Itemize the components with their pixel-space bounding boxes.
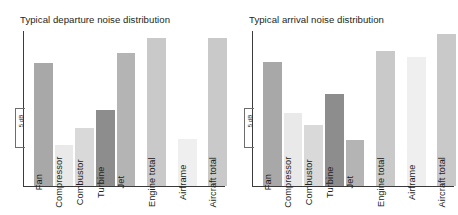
bar-label: Compressor <box>55 156 64 207</box>
scale-stem <box>15 108 16 148</box>
bar-compressor: Compressor <box>55 145 73 186</box>
bar-label: Jet <box>346 176 355 189</box>
bar-label: Fan <box>263 174 272 190</box>
bar-label: Turbine <box>96 166 105 198</box>
bar-combustor: Combustor <box>75 128 94 186</box>
scale-stem <box>244 108 245 148</box>
bar-label: Airframe <box>407 164 416 200</box>
bar-turbine: Turbine <box>325 94 344 186</box>
bar-airframe: Airframe <box>407 57 426 186</box>
noise-distribution-figure: Typical departure noise distribution 5 d… <box>0 0 458 215</box>
arrival-chart-title: Typical arrival noise distribution <box>249 14 384 26</box>
bar-label: Engine total <box>376 157 385 207</box>
arrival-plot-area: FanCompressorCombustorTurbineJetEngine t… <box>252 31 454 186</box>
bar-label: Fan <box>34 174 43 190</box>
bar-compressor: Compressor <box>284 113 302 186</box>
bar-combustor: Combustor <box>304 125 323 186</box>
arrival-chart-panel: Typical arrival noise distribution 5 dB … <box>229 0 458 215</box>
bar-label: Compressor <box>284 156 293 207</box>
bar-fan: Fan <box>263 62 282 186</box>
bar-engine-total: Engine total <box>376 51 395 186</box>
bar-label: Aircraft total <box>437 157 446 207</box>
bar-fan: Fan <box>34 63 53 186</box>
bar-label: Combustor <box>304 159 313 205</box>
bar-turbine: Turbine <box>96 110 115 186</box>
bar-airframe: Airframe <box>178 139 197 186</box>
bar-label: Combustor <box>75 159 84 205</box>
bar-label: Turbine <box>325 166 334 198</box>
bar-aircraft-total: Aircraft total <box>208 38 227 186</box>
departure-chart-title: Typical departure noise distribution <box>20 14 170 26</box>
departure-chart-panel: Typical departure noise distribution 5 d… <box>0 0 229 215</box>
bar-label: Aircraft total <box>208 157 217 207</box>
bar-engine-total: Engine total <box>147 38 166 186</box>
departure-plot-area: FanCompressorCombustorTurbineJetEngine t… <box>23 31 225 186</box>
bar-jet: Jet <box>346 140 364 186</box>
bar-jet: Jet <box>117 53 135 186</box>
bar-label: Jet <box>117 176 126 189</box>
bar-label: Engine total <box>147 157 156 207</box>
bar-aircraft-total: Aircraft total <box>437 34 456 186</box>
bar-label: Airframe <box>178 164 187 200</box>
